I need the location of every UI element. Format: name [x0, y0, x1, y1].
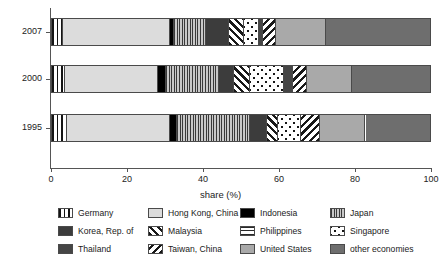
- bar-segment-japan: [174, 19, 206, 45]
- bar-1995: [51, 114, 431, 142]
- legend-item-taiwan[interactable]: Taiwan, China: [148, 240, 240, 257]
- legend-item-japan[interactable]: Japan: [330, 204, 422, 221]
- bar-segment-korea: [250, 115, 267, 141]
- bar-segment-indonesia: [158, 66, 166, 92]
- y-tick-label-1995: 1995: [6, 122, 42, 132]
- bar-segment-malaysia: [229, 19, 244, 45]
- x-axis-line: [50, 168, 432, 169]
- legend-item-singapore[interactable]: Singapore: [330, 222, 422, 239]
- legend-swatch-singapore-icon: [330, 226, 345, 236]
- bar-segment-other: [352, 66, 431, 92]
- x-tick-label: 40: [198, 174, 208, 184]
- stacked-bar-chart: 020406080100 200720001995 share (%) year…: [0, 0, 441, 266]
- x-tick-label: 80: [350, 174, 360, 184]
- legend-item-indonesia[interactable]: Indonesia: [240, 204, 332, 221]
- bar-segment-germany: [52, 115, 67, 141]
- x-tick-label: 100: [423, 174, 438, 184]
- y-tick-label-2000: 2000: [6, 73, 42, 83]
- legend-item-germany[interactable]: Germany: [58, 204, 150, 221]
- legend-item-other[interactable]: other economies: [330, 240, 422, 257]
- legend-item-korea[interactable]: Korea, Rep. of: [58, 222, 150, 239]
- legend-swatch-other-icon: [330, 244, 345, 254]
- bar-segment-hongkong: [65, 66, 158, 92]
- bar-segment-hongkong: [63, 19, 169, 45]
- legend-label-thailand: Thailand: [78, 244, 111, 254]
- bar-2000: [51, 65, 431, 93]
- x-tick: [279, 168, 280, 172]
- bar-segment-singapore: [250, 66, 284, 92]
- legend: GermanyKorea, Rep. ofThailandHong Kong, …: [58, 204, 430, 260]
- legend-label-taiwan: Taiwan, China: [168, 244, 222, 254]
- bar-segment-germany: [52, 19, 63, 45]
- y-tick-label-2007: 2007: [6, 26, 42, 36]
- bar-segment-unitedstates: [276, 19, 325, 45]
- legend-swatch-germany-icon: [58, 208, 73, 218]
- legend-label-hongkong: Hong Kong, China: [168, 208, 238, 218]
- legend-swatch-malaysia-icon: [148, 226, 163, 236]
- legend-column-2: Hong Kong, ChinaMalaysiaTaiwan, China: [148, 204, 240, 258]
- y-tick: [46, 79, 51, 80]
- legend-swatch-unitedstates-icon: [240, 244, 255, 254]
- legend-column-3: IndonesiaPhilippinesUnited States: [240, 204, 332, 258]
- bar-segment-other: [366, 115, 432, 141]
- legend-column-4: JapanSingaporeother economies: [330, 204, 422, 258]
- legend-label-korea: Korea, Rep. of: [78, 226, 133, 236]
- bar-segment-germany: [52, 66, 65, 92]
- x-axis-title: share (%): [0, 189, 441, 200]
- legend-label-other: other economies: [350, 244, 414, 254]
- x-tick-label: 20: [122, 174, 132, 184]
- bar-segment-korea: [219, 66, 234, 92]
- bar-segment-unitedstates: [320, 115, 366, 141]
- legend-label-malaysia: Malaysia: [168, 226, 202, 236]
- x-tick: [431, 168, 432, 172]
- bar-2007: [51, 18, 431, 46]
- legend-swatch-japan-icon: [330, 208, 345, 218]
- x-tick: [51, 168, 52, 172]
- legend-item-malaysia[interactable]: Malaysia: [148, 222, 240, 239]
- legend-swatch-taiwan-icon: [148, 244, 163, 254]
- legend-swatch-indonesia-icon: [240, 208, 255, 218]
- legend-item-philippines[interactable]: Philippines: [240, 222, 332, 239]
- plot-area: [51, 8, 431, 166]
- bar-segment-japan: [166, 66, 219, 92]
- bar-segment-hongkong: [67, 115, 170, 141]
- legend-swatch-philippines-icon: [240, 226, 255, 236]
- bar-segment-taiwan: [293, 66, 306, 92]
- bar-segment-malaysia: [267, 115, 278, 141]
- bar-segment-unitedstates: [307, 66, 353, 92]
- legend-column-1: GermanyKorea, Rep. ofThailand: [58, 204, 150, 258]
- legend-item-unitedstates[interactable]: United States: [240, 240, 332, 257]
- legend-swatch-korea-icon: [58, 226, 73, 236]
- x-tick-label: 60: [274, 174, 284, 184]
- bar-segment-singapore: [278, 115, 301, 141]
- legend-label-japan: Japan: [350, 208, 373, 218]
- bar-segment-korea: [206, 19, 229, 45]
- legend-label-germany: Germany: [78, 208, 113, 218]
- x-tick: [127, 168, 128, 172]
- bar-segment-japan: [177, 115, 249, 141]
- y-tick: [46, 32, 51, 33]
- bar-segment-other: [326, 19, 431, 45]
- legend-item-thailand[interactable]: Thailand: [58, 240, 150, 257]
- legend-label-philippines: Philippines: [260, 226, 302, 236]
- legend-label-indonesia: Indonesia: [260, 208, 297, 218]
- bar-segment-indonesia: [170, 115, 178, 141]
- y-tick: [46, 128, 51, 129]
- bar-segment-malaysia: [234, 66, 249, 92]
- x-tick: [203, 168, 204, 172]
- bar-segment-taiwan: [263, 19, 276, 45]
- legend-label-unitedstates: United States: [260, 244, 312, 254]
- x-tick: [355, 168, 356, 172]
- bar-segment-thailand: [284, 66, 294, 92]
- x-tick-label: 0: [48, 174, 53, 184]
- bar-segment-taiwan: [301, 115, 320, 141]
- bar-segment-singapore: [244, 19, 259, 45]
- legend-label-singapore: Singapore: [350, 226, 389, 236]
- legend-swatch-thailand-icon: [58, 244, 73, 254]
- legend-swatch-hongkong-icon: [148, 208, 163, 218]
- legend-item-hongkong[interactable]: Hong Kong, China: [148, 204, 240, 221]
